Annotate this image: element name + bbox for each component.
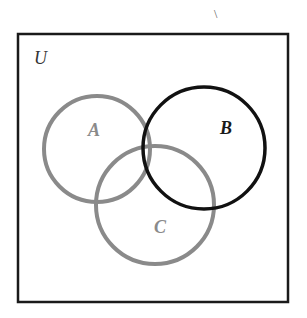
universe-rectangle: [18, 34, 288, 302]
venn-diagram: U A B C \: [0, 0, 307, 318]
universe-label: U: [34, 48, 48, 68]
set-a-label: A: [87, 120, 100, 140]
set-c-label: C: [154, 217, 167, 237]
set-c-circle: [96, 146, 214, 264]
set-b-label: B: [219, 118, 232, 138]
stray-mark: \: [214, 7, 218, 21]
